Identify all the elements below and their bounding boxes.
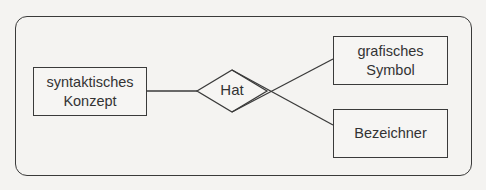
entity-label-line2: Konzept — [63, 93, 116, 109]
entity-label: Bezeichner — [354, 124, 427, 143]
entity-label-line1: syntaktisches — [46, 74, 133, 90]
entity-label-line1: grafisches — [357, 43, 423, 59]
relationship-label: Hat — [210, 81, 254, 98]
entity-syntaktisches-konzept: syntaktisches Konzept — [33, 67, 147, 116]
entity-bezeichner: Bezeichner — [333, 109, 448, 158]
entity-grafisches-symbol: grafisches Symbol — [333, 36, 448, 85]
entity-label-line2: Symbol — [366, 62, 414, 78]
